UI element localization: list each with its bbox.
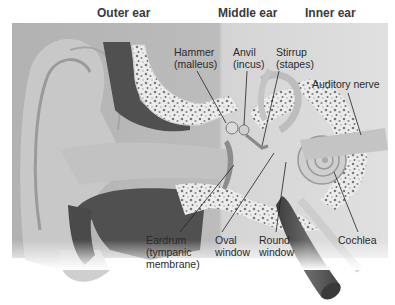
label-anvil-line2: (incus) — [233, 58, 265, 70]
label-anvil: Anvil (incus) — [233, 46, 265, 70]
label-cochlea: Cochlea — [338, 234, 377, 246]
label-auditory-nerve-line1: Auditory nerve — [312, 78, 380, 90]
region-header-inner-ear: Inner ear — [305, 6, 356, 20]
label-anvil-line1: Anvil — [233, 46, 265, 58]
label-eardrum: Eardrum (tympanic membrane) — [146, 234, 200, 270]
label-oval-window-line2: window — [215, 246, 250, 258]
label-auditory-nerve: Auditory nerve — [312, 78, 380, 90]
region-header-middle-ear: Middle ear — [218, 6, 277, 20]
label-round-window: Round window — [259, 234, 294, 258]
label-stirrup-line1: Stirrup — [276, 46, 314, 58]
label-hammer-line2: (malleus) — [174, 58, 217, 70]
label-eardrum-line3: membrane) — [146, 258, 200, 270]
label-oval-window-line1: Oval — [215, 234, 250, 246]
label-eardrum-line2: (tympanic — [146, 246, 200, 258]
region-header-outer-ear: Outer ear — [97, 6, 150, 20]
label-eardrum-line1: Eardrum — [146, 234, 200, 246]
label-hammer: Hammer (malleus) — [174, 46, 217, 70]
label-stirrup: Stirrup (stapes) — [276, 46, 314, 70]
label-oval-window: Oval window — [215, 234, 250, 258]
label-round-window-line1: Round — [259, 234, 294, 246]
label-round-window-line2: window — [259, 246, 294, 258]
label-stirrup-line2: (stapes) — [276, 58, 314, 70]
label-hammer-line1: Hammer — [174, 46, 217, 58]
label-cochlea-line1: Cochlea — [338, 234, 377, 246]
